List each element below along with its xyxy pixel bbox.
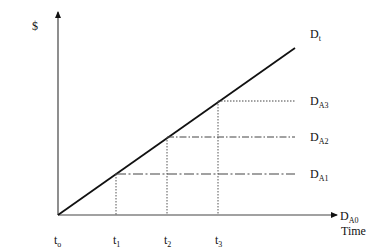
- total-demand-label-main: D: [310, 27, 319, 41]
- da1-label-main: D: [310, 167, 319, 181]
- da0-label: DA0: [340, 210, 358, 224]
- tick-t1-sub: 1: [116, 240, 120, 249]
- x-axis-label: Time: [341, 225, 366, 237]
- tick-t0-sub: o: [57, 240, 61, 249]
- da0-label-main: D: [340, 209, 349, 223]
- da2-label-sub: A2: [319, 137, 329, 146]
- da1-label: DA1: [310, 168, 328, 182]
- total-demand-line: [58, 48, 295, 215]
- da3-label-main: D: [310, 94, 319, 108]
- total-demand-label-sub: t: [319, 34, 321, 43]
- tick-t3: t3: [215, 234, 222, 248]
- y-axis-label: $: [32, 20, 38, 32]
- da2-label-main: D: [310, 130, 319, 144]
- tick-t2: t2: [164, 234, 171, 248]
- da1-label-sub: A1: [319, 174, 329, 183]
- total-demand-label: Dt: [310, 28, 321, 42]
- da3-label: DA3: [310, 95, 328, 109]
- demand-time-diagram: [0, 0, 383, 251]
- da2-label: DA2: [310, 131, 328, 145]
- tick-t2-sub: 2: [167, 240, 171, 249]
- tick-t3-sub: 3: [218, 240, 222, 249]
- tick-t1: t1: [113, 234, 120, 248]
- tick-t0: to: [54, 234, 61, 248]
- da3-label-sub: A3: [319, 101, 329, 110]
